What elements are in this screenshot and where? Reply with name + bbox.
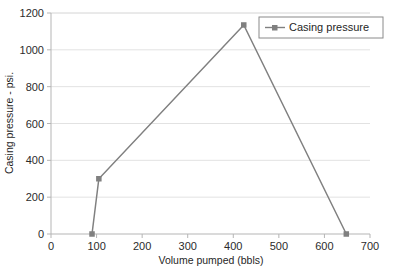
- x-axis-title: Volume pumped (bbls): [158, 254, 263, 266]
- data-point-marker[interactable]: [344, 231, 350, 237]
- y-axis-tick-label: 600: [26, 118, 44, 130]
- x-axis-tick-label: 600: [315, 240, 333, 252]
- x-axis-tick-label: 0: [48, 240, 54, 252]
- y-axis-tick-label: 1000: [20, 44, 44, 56]
- data-point-marker[interactable]: [89, 231, 95, 237]
- data-point-marker[interactable]: [96, 176, 102, 182]
- data-point-marker[interactable]: [241, 22, 247, 28]
- y-axis-tick-label: 200: [26, 191, 44, 203]
- chart-legend[interactable]: Casing pressure: [259, 17, 383, 38]
- x-axis-tick-label: 400: [224, 240, 242, 252]
- legend-marker-swatch: [272, 25, 278, 31]
- x-axis-tick-label: 100: [87, 240, 105, 252]
- y-axis-tick-label: 800: [26, 81, 44, 93]
- x-axis-tick-label: 300: [179, 240, 197, 252]
- y-axis-tick-label: 0: [38, 228, 44, 240]
- casing-pressure-line-chart: 020040060080010001200 010020030040050060…: [0, 0, 393, 275]
- y-axis-tick-label: 1200: [20, 7, 44, 19]
- x-axis-tick-label: 500: [270, 240, 288, 252]
- chart-svg: 020040060080010001200 010020030040050060…: [0, 0, 393, 275]
- x-axis-tick-label: 200: [133, 240, 151, 252]
- x-axis-tick-label: 700: [361, 240, 379, 252]
- y-axis-tick-label: 400: [26, 154, 44, 166]
- legend-entry-label: Casing pressure: [289, 21, 369, 33]
- y-axis-title: Casing pressure - psi.: [3, 72, 15, 174]
- plot-area: [51, 13, 370, 234]
